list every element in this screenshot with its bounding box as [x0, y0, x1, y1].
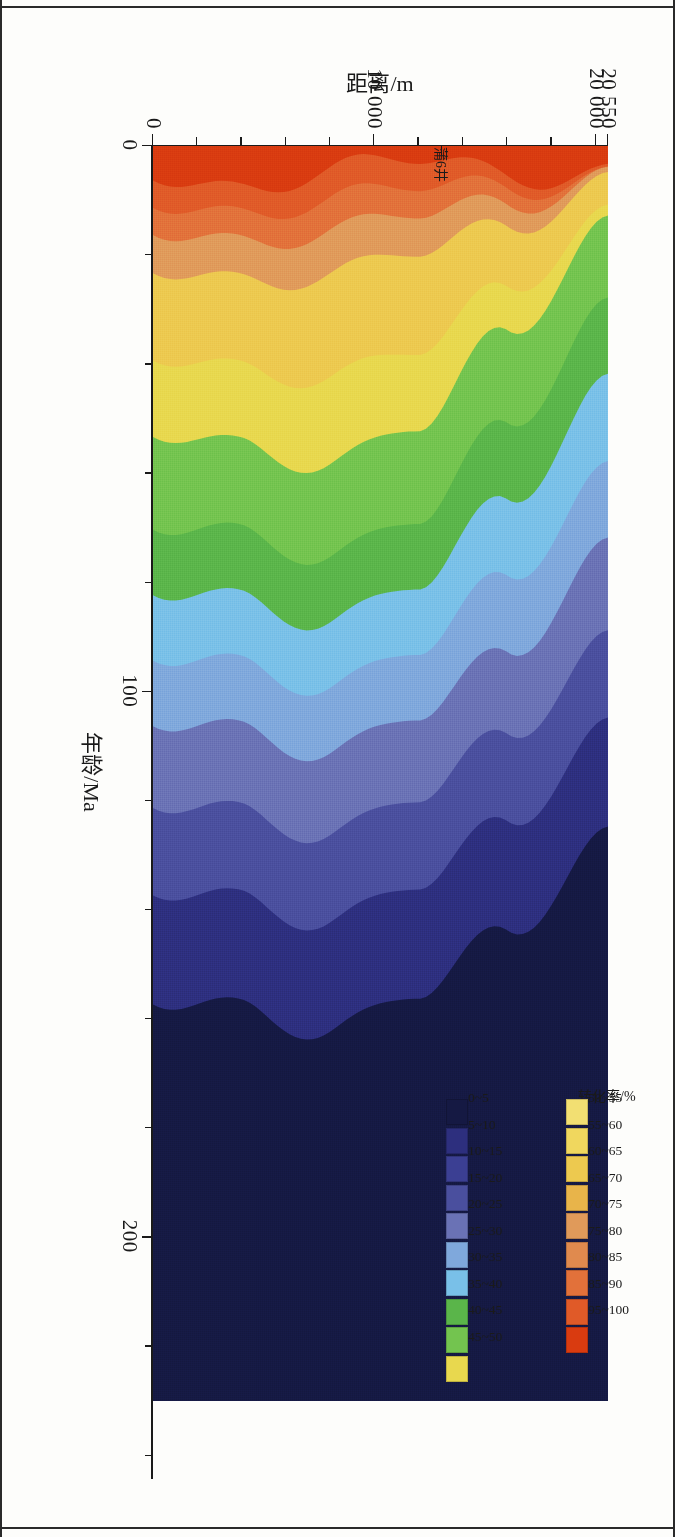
rotated-figure: 0100200 010 00020 00020 550 年龄/Ma 距离/m 蒲… — [38, 59, 638, 1479]
legend-label-text: 80~85 — [588, 1249, 622, 1265]
legend-swatch — [566, 1127, 588, 1153]
legend-label: 95~100 — [588, 1311, 622, 1338]
legend-swatch — [446, 1355, 468, 1381]
legend-label-text: 45~50 — [468, 1328, 502, 1344]
legend-label: 45~50 — [468, 1337, 502, 1364]
legend-label-text: 5~10 — [468, 1116, 496, 1132]
x-tick — [145, 908, 153, 909]
x-tick-label: 100 — [117, 674, 142, 707]
legend-swatch — [566, 1270, 588, 1296]
legend-label-text: 95~100 — [588, 1302, 629, 1318]
legend-row-high: 50~5555~6060~6565~7070~7575~8080~8585~90… — [560, 1099, 622, 1399]
well-marker-label: 蒲6井 — [432, 147, 452, 182]
legend-swatches-high — [566, 1099, 588, 1356]
y-tick — [240, 137, 241, 145]
x-tick — [145, 472, 153, 473]
x-tick — [145, 1127, 153, 1128]
legend-label-text: 30~35 — [468, 1249, 502, 1265]
x-tick-label: 200 — [117, 1219, 142, 1252]
legend-swatch — [446, 1127, 468, 1153]
legend-labels-high: 50~5555~6060~6565~7070~7575~8080~8585~90… — [588, 1099, 622, 1338]
legend-swatch — [566, 1184, 588, 1210]
legend-swatch — [566, 1327, 588, 1353]
legend-label-text: 25~30 — [468, 1222, 502, 1238]
legend-swatch — [446, 1298, 468, 1324]
legend-label-text: 40~45 — [468, 1302, 502, 1318]
legend-swatch — [566, 1213, 588, 1239]
legend-label-text: 10~15 — [468, 1143, 502, 1159]
legend-label-text: 75~80 — [588, 1222, 622, 1238]
legend-row-low: 0~55~1010~1515~2020~2525~3030~3535~4040~… — [440, 1099, 502, 1399]
y-tick — [550, 137, 551, 145]
legend-swatch — [566, 1298, 588, 1324]
y-tick — [373, 134, 374, 145]
y-tick — [461, 137, 462, 145]
legend-swatch — [446, 1184, 468, 1210]
x-tick — [145, 1454, 153, 1455]
y-tick — [151, 134, 152, 145]
y-tick — [417, 137, 418, 145]
legend-label-text: 70~75 — [588, 1196, 622, 1212]
x-axis-line — [151, 145, 153, 1400]
legend-swatch — [446, 1241, 468, 1267]
x-tick — [145, 363, 153, 364]
legend: 转化率/% 50~5555~6060~6565~7070~7575~8080~8… — [440, 1099, 622, 1399]
legend-swatch — [566, 1099, 588, 1125]
legend-swatch — [446, 1327, 468, 1353]
x-tick — [142, 690, 153, 691]
x-tick — [145, 254, 153, 255]
y-tick — [505, 137, 506, 145]
plot-wrapper: 0100200 010 00020 00020 550 年龄/Ma 距离/m 蒲… — [38, 59, 638, 1479]
y-tick — [196, 137, 197, 145]
y-tick-label: 20 550 — [595, 68, 620, 129]
y-tick — [594, 134, 595, 145]
legend-swatch — [446, 1099, 468, 1125]
legend-swatches-low — [446, 1099, 468, 1384]
legend-label-text: 60~65 — [588, 1143, 622, 1159]
legend-swatch — [446, 1156, 468, 1182]
x-tick — [145, 1345, 153, 1346]
legend-labels-low: 0~55~1010~1515~2020~2525~3030~3535~4040~… — [468, 1099, 502, 1364]
legend-swatch — [566, 1156, 588, 1182]
x-axis-line-extension — [151, 1400, 153, 1479]
y-tick — [284, 137, 285, 145]
y-tick-label: 0 — [140, 118, 165, 129]
y-axis-title: 距离/m — [346, 65, 413, 97]
legend-label-text: 50~55 — [588, 1090, 622, 1106]
y-tick — [328, 137, 329, 145]
legend-label-text: 0~5 — [468, 1090, 489, 1106]
y-tick — [606, 134, 607, 145]
legend-label-text: 85~90 — [588, 1275, 622, 1291]
x-axis-title: 年龄/Ma — [78, 732, 110, 811]
legend-swatch — [446, 1270, 468, 1296]
legend-label-text: 20~25 — [468, 1196, 502, 1212]
legend-label-text: 65~70 — [588, 1169, 622, 1185]
legend-label-text: 35~40 — [468, 1275, 502, 1291]
legend-swatch — [446, 1213, 468, 1239]
legend-swatch — [566, 1241, 588, 1267]
legend-label-text: 15~20 — [468, 1169, 502, 1185]
legend-label-text: 55~60 — [588, 1116, 622, 1132]
x-tick-label: 0 — [117, 139, 142, 150]
x-tick — [145, 1018, 153, 1019]
x-tick — [145, 799, 153, 800]
x-tick — [145, 581, 153, 582]
x-tick — [142, 1236, 153, 1237]
